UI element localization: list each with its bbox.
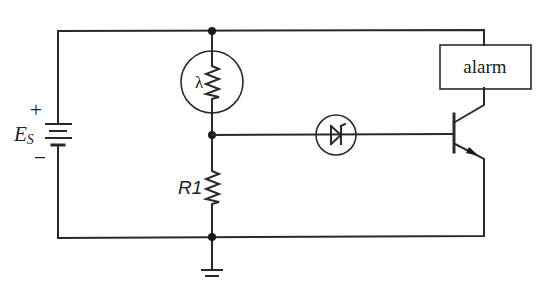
circuit-diagram: + − ES λ R1 alarm <box>0 0 550 293</box>
base-drive-wire <box>212 134 453 135</box>
resistor-r1-icon <box>206 168 219 207</box>
top-rail-wire <box>58 30 484 122</box>
battery-minus-label: − <box>34 145 46 170</box>
junction-node-bottom <box>208 233 216 241</box>
battery-plus-label: + <box>30 97 42 122</box>
ground-icon <box>202 270 222 276</box>
battery-source-icon <box>46 122 71 145</box>
junction-node-top <box>208 27 216 35</box>
bottom-rail-wire <box>58 146 484 238</box>
npn-transistor-icon <box>454 88 484 159</box>
source-label: ES <box>13 122 34 147</box>
alarm-label: alarm <box>463 56 506 77</box>
photoresistor-lambda-label: λ <box>195 73 204 92</box>
resistor-r1-label: R1 <box>178 177 202 198</box>
